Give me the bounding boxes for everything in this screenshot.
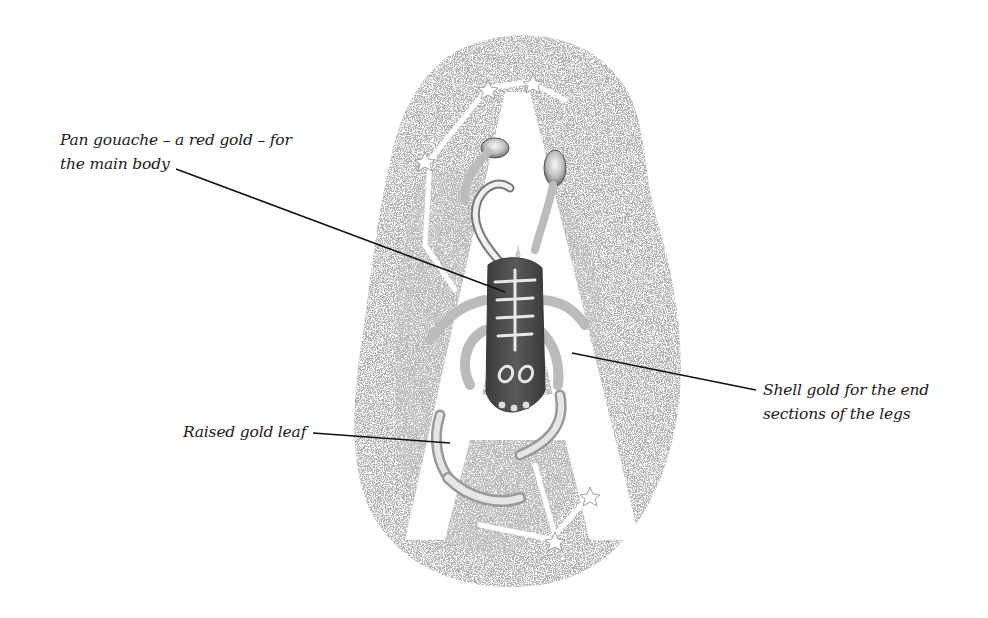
annotation-line: Pan gouache – a red gold – for	[60, 128, 292, 152]
annotation-line: the main body	[60, 152, 292, 176]
annotation-line: Shell gold for the end	[763, 378, 929, 402]
illuminated-letter-artwork	[0, 0, 988, 618]
annotation-line: Raised gold leaf	[183, 420, 306, 444]
annotation-raised-leaf: Raised gold leaf	[183, 420, 306, 444]
annotation-leg-ends: Shell gold for the end sections of the l…	[763, 378, 929, 426]
annotation-main-body: Pan gouache – a red gold – for the main …	[60, 128, 292, 176]
annotation-line: sections of the legs	[763, 402, 929, 426]
